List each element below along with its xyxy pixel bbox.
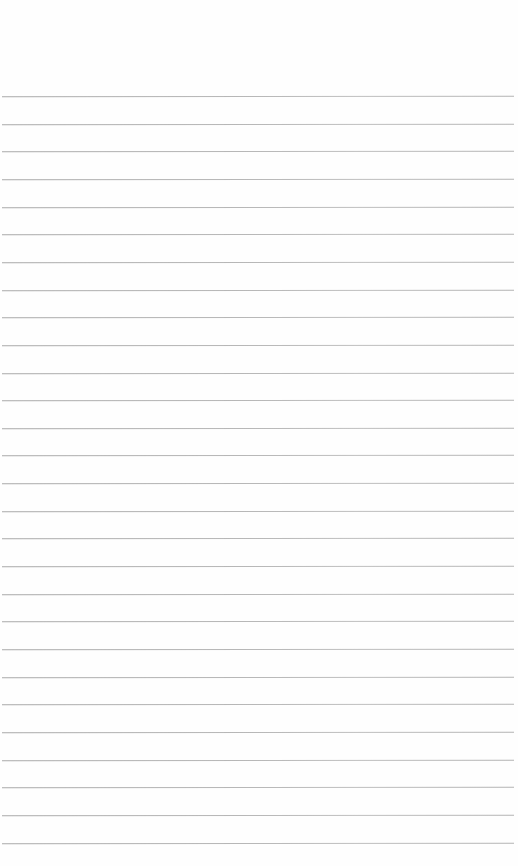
ruled-line xyxy=(2,96,514,97)
ruled-line xyxy=(2,704,514,705)
ruled-line xyxy=(2,345,514,346)
ruled-line xyxy=(2,649,514,650)
ruled-line xyxy=(2,815,514,816)
ruled-line xyxy=(2,234,514,235)
ruled-line xyxy=(2,428,514,429)
ruled-line xyxy=(2,677,514,678)
ruled-line xyxy=(2,594,514,595)
ruled-line xyxy=(2,538,514,539)
ruled-line xyxy=(2,732,514,733)
ruled-line xyxy=(2,400,514,401)
ruled-line xyxy=(2,566,514,567)
ruled-line xyxy=(2,207,514,208)
ruled-paper-page xyxy=(0,0,518,866)
ruled-line xyxy=(2,151,514,152)
ruled-line xyxy=(2,262,514,263)
ruled-line xyxy=(2,483,514,484)
ruled-line xyxy=(2,787,514,788)
ruled-line xyxy=(2,511,514,512)
ruled-line xyxy=(2,179,514,180)
ruled-line xyxy=(2,455,514,456)
ruled-line xyxy=(2,373,514,374)
ruled-line xyxy=(2,317,514,318)
ruled-line xyxy=(2,290,514,291)
ruled-line xyxy=(2,124,514,125)
ruled-line xyxy=(2,843,514,844)
ruled-line xyxy=(2,760,514,761)
ruled-line xyxy=(2,621,514,622)
